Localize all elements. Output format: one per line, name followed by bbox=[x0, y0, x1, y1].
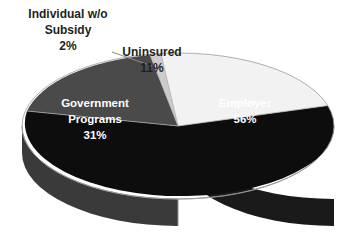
label-employer-name: Employer bbox=[219, 97, 272, 109]
label-government-programs-value: 31% bbox=[83, 129, 106, 141]
label-employer-value: 56% bbox=[233, 113, 256, 125]
label-uninsured-name: Uninsured bbox=[122, 45, 181, 59]
label-uninsured-value: 11% bbox=[140, 61, 164, 75]
pie-chart-svg: Individual w/o Subsidy 2% Uninsured 11% … bbox=[0, 0, 352, 241]
label-individual-wo-subsidy-line2: Subsidy bbox=[45, 23, 92, 37]
label-government-programs-line2: Programs bbox=[68, 113, 122, 125]
label-individual-wo-subsidy-value: 2% bbox=[59, 39, 77, 53]
pie-chart-figure: Individual w/o Subsidy 2% Uninsured 11% … bbox=[0, 0, 352, 241]
label-individual-wo-subsidy-line1: Individual w/o bbox=[28, 7, 107, 21]
label-government-programs-line1: Government bbox=[61, 97, 129, 109]
